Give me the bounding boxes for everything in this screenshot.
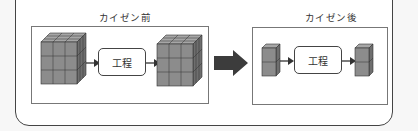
before-process-box: 工程 bbox=[98, 48, 146, 76]
big-right-arrow-icon bbox=[214, 50, 248, 76]
before-input-cubes-icon bbox=[41, 33, 91, 85]
arrow-right-icon bbox=[342, 57, 356, 65]
after-input-cubes-icon bbox=[262, 44, 282, 76]
before-output-cubes-icon bbox=[157, 35, 207, 87]
after-title: カイゼン後 bbox=[286, 10, 376, 24]
arrow-right-icon bbox=[280, 57, 294, 65]
after-process-box: 工程 bbox=[294, 46, 342, 74]
before-title: カイゼン前 bbox=[80, 10, 170, 24]
after-output-cubes-icon bbox=[355, 44, 375, 76]
